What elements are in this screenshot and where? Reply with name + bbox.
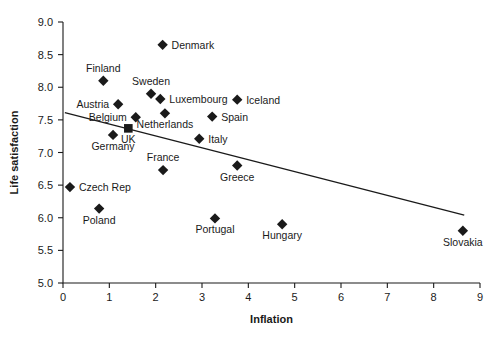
x-tick-label: 6 [338, 291, 344, 303]
x-tick-label: 5 [292, 291, 298, 303]
data-label-luxembourg: Luxembourg [169, 93, 228, 105]
axes [63, 22, 480, 283]
data-marker-uk [124, 124, 133, 133]
data-label-czech-rep: Czech Rep [79, 181, 131, 193]
data-label-finland: Finland [86, 62, 121, 74]
data-marker-denmark [157, 40, 167, 50]
data-label-germany: Germany [91, 140, 135, 152]
plot-area: 01234567895.05.56.06.57.07.58.08.59.0 De… [0, 0, 503, 340]
x-axis-title: Inflation [250, 313, 293, 325]
x-tick-label: 2 [153, 291, 159, 303]
y-tick-label: 5.0 [38, 277, 53, 289]
data-label-sweden: Sweden [132, 75, 170, 87]
data-point-labels: DenmarkFinlandSwedenAustriaLuxembourgIce… [76, 39, 482, 248]
x-tick-label: 8 [431, 291, 437, 303]
x-tick-label: 7 [384, 291, 390, 303]
data-label-poland: Poland [83, 214, 116, 226]
data-label-slovakia: Slovakia [443, 236, 483, 248]
data-label-france: France [147, 151, 180, 163]
scatter-chart: 01234567895.05.56.06.57.07.58.08.59.0 De… [0, 0, 503, 340]
data-marker-france [158, 165, 168, 175]
data-label-belgium: Belgium [89, 111, 127, 123]
data-marker-slovakia [458, 226, 468, 236]
x-tick-label: 0 [60, 291, 66, 303]
data-marker-iceland [232, 94, 242, 104]
data-label-netherlands: Netherlands [137, 118, 194, 130]
y-tick-label: 8.5 [38, 49, 53, 61]
x-tick-label: 9 [477, 291, 483, 303]
data-label-denmark: Denmark [172, 39, 215, 51]
data-label-hungary: Hungary [262, 229, 302, 241]
data-marker-poland [94, 203, 104, 213]
y-tick-label: 8.0 [38, 81, 53, 93]
data-marker-sweden [146, 89, 156, 99]
x-tick-label: 1 [106, 291, 112, 303]
data-marker-spain [207, 111, 217, 121]
data-label-greece: Greece [220, 171, 255, 183]
data-marker-greece [232, 160, 242, 170]
data-marker-austria [113, 99, 123, 109]
data-label-austria: Austria [76, 98, 109, 110]
data-marker-portugal [210, 213, 220, 223]
data-marker-italy [194, 134, 204, 144]
data-marker-luxembourg [155, 94, 165, 104]
y-tick-label: 6.5 [38, 179, 53, 191]
data-marker-netherlands [160, 108, 170, 118]
data-label-spain: Spain [221, 111, 248, 123]
axis-lines [63, 22, 480, 283]
x-tick-label: 4 [245, 291, 251, 303]
x-tick-label: 3 [199, 291, 205, 303]
data-label-iceland: Iceland [246, 94, 280, 106]
data-marker-germany [108, 130, 118, 140]
y-axis-title: Life satisfaction [8, 110, 20, 194]
y-tick-label: 7.5 [38, 114, 53, 126]
data-label-italy: Italy [208, 133, 228, 145]
y-tick-label: 5.5 [38, 244, 53, 256]
data-marker-czech-rep [65, 182, 75, 192]
data-marker-hungary [277, 219, 287, 229]
y-tick-label: 9.0 [38, 16, 53, 28]
y-tick-label: 6.0 [38, 212, 53, 224]
data-label-portugal: Portugal [195, 223, 234, 235]
tick-marks [58, 22, 480, 288]
tick-labels: 01234567895.05.56.06.57.07.58.08.59.0 [38, 16, 483, 303]
data-marker-finland [98, 76, 108, 86]
y-tick-label: 7.0 [38, 147, 53, 159]
